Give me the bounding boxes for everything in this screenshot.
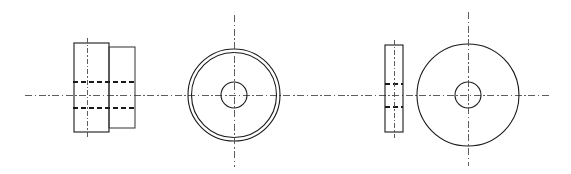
left-flange-rect	[74, 43, 109, 132]
view-part-b-front-section	[385, 40, 403, 138]
right-body-rect	[109, 47, 135, 128]
view-part-a-front-section	[73, 38, 136, 138]
view-part-a-end	[188, 15, 280, 167]
view-part-b-end	[417, 12, 519, 166]
technical-drawing-svg	[0, 0, 571, 174]
drawing-canvas	[0, 0, 571, 174]
